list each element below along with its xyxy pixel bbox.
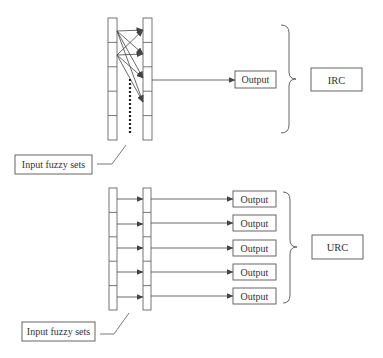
urc-input-callout: Input fuzzy sets	[22, 313, 129, 341]
urc-output-box: Output	[233, 191, 276, 207]
irc-input-callout: Input fuzzy sets	[15, 145, 126, 174]
urc-output-box: Output	[233, 288, 276, 304]
irc-tag-box: IRC	[311, 68, 362, 91]
urc-output-box: Output	[233, 240, 276, 256]
irc-input-label: Input fuzzy sets	[22, 159, 85, 170]
urc-output-label: Output	[241, 194, 269, 205]
irc-urc-diagram: Output IRC Input fuzzy sets	[0, 0, 383, 358]
irc-section: Output IRC Input fuzzy sets	[15, 18, 362, 174]
irc-rule-column	[143, 18, 152, 140]
irc-input-column	[108, 18, 117, 140]
urc-output-arrows	[151, 199, 233, 296]
urc-brace	[283, 192, 297, 303]
urc-output-box: Output	[233, 264, 276, 280]
irc-output-box: Output	[235, 71, 276, 88]
urc-input-arrows	[117, 199, 143, 297]
urc-section: Output Output Output Output Output URC	[22, 188, 363, 341]
irc-tag-label: IRC	[328, 75, 346, 86]
irc-output-label: Output	[242, 74, 270, 85]
urc-tag-label: URC	[327, 242, 349, 253]
urc-input-label: Input fuzzy sets	[27, 326, 90, 337]
urc-output-label: Output	[241, 267, 269, 278]
urc-output-box: Output	[233, 215, 276, 231]
urc-input-column	[109, 188, 117, 310]
urc-tag-box: URC	[312, 235, 363, 259]
urc-output-label: Output	[241, 291, 269, 302]
urc-output-label: Output	[241, 243, 269, 254]
urc-output-label: Output	[241, 218, 269, 229]
urc-rule-column	[143, 188, 151, 310]
irc-brace	[281, 25, 296, 133]
